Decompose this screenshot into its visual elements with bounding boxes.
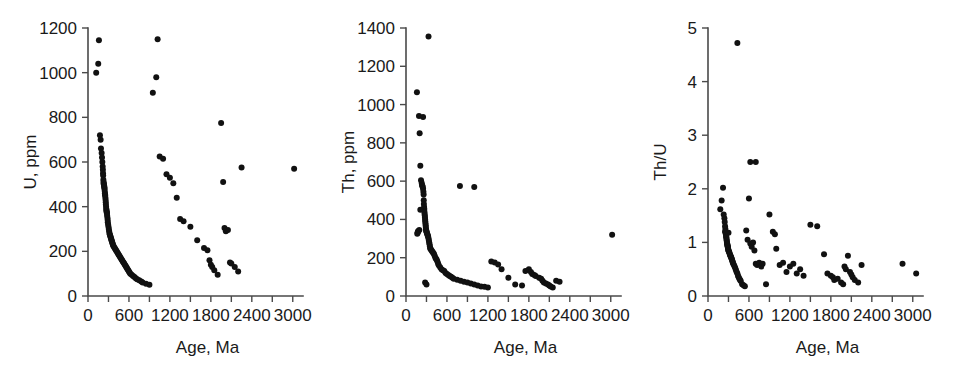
data-point (609, 232, 615, 238)
data-point (557, 279, 563, 285)
data-point (550, 284, 556, 290)
y-axis-title: U, ppm (21, 135, 40, 190)
data-point (763, 281, 769, 287)
data-point (772, 231, 778, 237)
y-tick-label: 1200 (357, 57, 395, 76)
data-point (773, 246, 779, 252)
data-point (859, 262, 865, 268)
y-tick-label: 4 (688, 73, 697, 92)
data-point (485, 284, 491, 290)
y-tick-label: 1400 (357, 19, 395, 38)
data-point (420, 114, 426, 120)
data-point (760, 261, 766, 267)
y-tick-label: 400 (49, 198, 77, 217)
data-point (215, 272, 221, 278)
data-point (913, 270, 919, 276)
x-tick-label: 2400 (233, 306, 271, 325)
data-point (797, 266, 803, 272)
y-tick-label: 1000 (39, 64, 77, 83)
data-point (746, 195, 752, 201)
x-tick-label: 3000 (894, 306, 932, 325)
y-tick-label: 600 (367, 172, 395, 191)
axis-lines (708, 28, 923, 296)
y-tick-label: 800 (367, 134, 395, 153)
data-point (751, 247, 757, 253)
scatter-plot-1: 0200400600800100012001400060012001800240… (318, 0, 636, 375)
data-point (753, 159, 759, 165)
data-point (96, 37, 102, 43)
data-point (717, 206, 723, 212)
data-point (499, 266, 505, 272)
scatter-plot-2: 01234506001200180024003000Age, MaTh/U (636, 0, 954, 375)
x-axis-title: Age, Ma (494, 338, 558, 357)
y-tick-label: 600 (49, 153, 77, 172)
data-point (783, 269, 789, 275)
y-tick-label: 3 (688, 126, 697, 145)
data-point (414, 231, 420, 237)
y-tick-label: 1200 (39, 19, 77, 38)
y-tick-label: 2 (688, 180, 697, 199)
figure-root: 0200400600800100012000600120018002400300… (0, 0, 954, 375)
data-point (421, 192, 427, 198)
data-point (734, 40, 740, 46)
data-point (790, 261, 796, 267)
y-tick-label: 1 (688, 233, 697, 252)
y-tick-label: 1000 (357, 96, 395, 115)
x-tick-label: 1200 (469, 306, 507, 325)
x-tick-label: 1800 (192, 306, 230, 325)
data-point (204, 247, 210, 253)
x-tick-label: 600 (433, 306, 461, 325)
y-axis-title: Th, ppm (339, 131, 358, 193)
y-tick-label: 5 (688, 19, 697, 38)
data-point (150, 90, 156, 96)
data-point (722, 229, 728, 235)
axis-lines (406, 28, 621, 296)
data-point (291, 166, 297, 172)
data-point (519, 282, 525, 288)
data-point (187, 224, 193, 230)
data-point (95, 61, 101, 67)
data-point (750, 239, 756, 245)
data-point (426, 34, 432, 40)
data-point (235, 268, 241, 274)
y-tick-label: 0 (68, 287, 77, 306)
data-point (845, 253, 851, 259)
data-point (146, 282, 152, 288)
data-point (220, 179, 226, 185)
panel-u-ppm: 0200400600800100012000600120018002400300… (0, 0, 318, 375)
scatter-plot-0: 0200400600800100012000600120018002400300… (0, 0, 318, 375)
x-tick-label: 1200 (151, 306, 189, 325)
data-point (840, 281, 846, 287)
data-point (417, 130, 423, 136)
data-point (512, 282, 518, 288)
x-tick-label: 3000 (274, 306, 312, 325)
data-point (780, 260, 786, 266)
data-point (181, 218, 187, 224)
data-point (167, 175, 173, 181)
data-point (900, 261, 906, 267)
data-point (801, 273, 807, 279)
data-point (471, 184, 477, 190)
y-tick-label: 200 (367, 249, 395, 268)
y-tick-label: 200 (49, 242, 77, 261)
data-point (743, 228, 749, 234)
y-tick-label: 400 (367, 210, 395, 229)
x-axis-title: Age, Ma (796, 338, 860, 357)
x-tick-label: 1200 (771, 306, 809, 325)
data-point (153, 74, 159, 80)
data-point (218, 120, 224, 126)
data-point (505, 275, 511, 281)
data-point (417, 163, 423, 169)
x-tick-label: 1800 (812, 306, 850, 325)
data-point (423, 282, 429, 288)
data-point (807, 222, 813, 228)
data-point (170, 180, 176, 186)
x-tick-label: 0 (703, 306, 712, 325)
data-point (719, 198, 725, 204)
y-tick-label: 0 (688, 287, 697, 306)
x-tick-label: 600 (735, 306, 763, 325)
data-points (93, 36, 297, 288)
x-tick-label: 600 (115, 306, 143, 325)
data-point (457, 183, 463, 189)
data-point (414, 89, 420, 95)
